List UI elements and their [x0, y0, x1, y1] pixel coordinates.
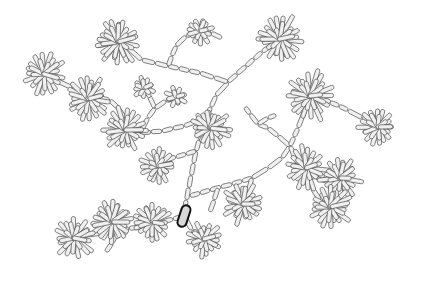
figure-root — [0, 0, 422, 283]
rod-capsule — [112, 220, 130, 224]
rod-colony-diagram — [0, 0, 422, 283]
chain-rod — [151, 129, 162, 134]
cluster-rod — [124, 128, 144, 133]
rod-capsule — [339, 176, 351, 181]
rod-capsule — [124, 128, 144, 133]
cluster-rod — [241, 202, 255, 206]
rod-capsule — [378, 125, 392, 130]
cluster-rod — [339, 176, 351, 181]
rod-capsule — [241, 202, 255, 206]
rod-capsule — [151, 129, 162, 134]
cluster-rod — [112, 220, 130, 224]
cluster-rod — [378, 125, 392, 130]
